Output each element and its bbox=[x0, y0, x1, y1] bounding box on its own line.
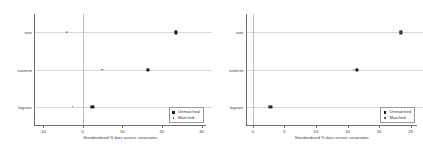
x-axis-tick-label: -10 bbox=[40, 129, 46, 134]
legend-item-unmatched: Unmatched bbox=[172, 110, 200, 114]
row-gridline bbox=[247, 32, 423, 33]
x-axis-tick bbox=[122, 125, 123, 128]
zero-reference-line bbox=[83, 14, 84, 125]
x-axis-tick bbox=[253, 125, 254, 128]
x-axis-tick bbox=[83, 125, 84, 128]
x-axis-tick bbox=[43, 125, 44, 128]
legend-item-matched: Matched bbox=[172, 116, 200, 120]
x-axis-tick-label: 0 bbox=[252, 129, 254, 134]
x-axis-tick-label: 10 bbox=[314, 129, 319, 134]
legend-label-matched: Matched bbox=[390, 116, 406, 120]
legend-label-unmatched: Unmatched bbox=[178, 110, 199, 114]
data-point-matched-rate bbox=[399, 32, 401, 34]
data-point-unmatched-isoterm bbox=[146, 68, 149, 71]
x-axis-tick bbox=[202, 125, 203, 128]
x-axis-tick-label: 5 bbox=[283, 129, 285, 134]
data-point-matched-rate bbox=[66, 32, 68, 34]
legend-marker-matched-icon bbox=[172, 117, 176, 119]
y-axis-label-logsize: logsize bbox=[18, 104, 32, 109]
x-axis-tick bbox=[379, 125, 380, 128]
legend-item-unmatched: Unmatched bbox=[383, 110, 411, 114]
x-axis-tick-label: 10 bbox=[120, 129, 125, 134]
zero-reference-line bbox=[253, 14, 254, 125]
y-axis-label-rate: rate bbox=[236, 30, 244, 35]
data-point-unmatched-rate bbox=[174, 31, 177, 34]
data-point-matched-logsize bbox=[72, 106, 74, 108]
x-axis-tick-label: 20 bbox=[160, 129, 165, 134]
x-axis-tick-label: 15 bbox=[345, 129, 350, 134]
x-axis-tick-label: 0 bbox=[81, 129, 83, 134]
data-point-unmatched-logsize bbox=[91, 105, 94, 108]
panel-left: Standardized % bias across covariates ra… bbox=[0, 0, 212, 153]
y-axis-label-rate: rate bbox=[24, 30, 32, 35]
x-axis-tick-label: 25 bbox=[408, 129, 413, 134]
legend-item-matched: Matched bbox=[383, 116, 411, 120]
x-axis-tick bbox=[316, 125, 317, 128]
data-point-matched-logsize bbox=[270, 106, 272, 108]
y-axis-label-isoterm: isoterm bbox=[18, 67, 32, 72]
legend-marker-unmatched-icon bbox=[172, 111, 176, 114]
x-axis-tick-label: 30 bbox=[199, 129, 204, 134]
x-axis-title: Standardized % bias across covariates bbox=[295, 135, 369, 140]
x-axis-tick bbox=[284, 125, 285, 128]
row-gridline bbox=[247, 70, 423, 71]
data-point-unmatched-isoterm bbox=[355, 68, 358, 71]
y-axis-label-logsize: logsize bbox=[230, 104, 244, 109]
x-axis-tick bbox=[162, 125, 163, 128]
legend-right: Unmatched Matched bbox=[380, 107, 415, 123]
legend-label-matched: Matched bbox=[178, 116, 194, 120]
row-gridline bbox=[35, 70, 212, 71]
row-gridline bbox=[35, 32, 212, 33]
y-axis-label-isoterm: isoterm bbox=[229, 67, 243, 72]
legend-marker-matched-icon bbox=[383, 117, 387, 119]
x-axis-title: Standardized % bias across covariates bbox=[83, 135, 157, 140]
legend-label-unmatched: Unmatched bbox=[390, 110, 411, 114]
data-point-matched-isoterm bbox=[102, 69, 104, 71]
covariate-balance-figure: Standardized % bias across covariates ra… bbox=[0, 0, 423, 153]
x-axis-tick bbox=[411, 125, 412, 128]
data-point-matched-isoterm bbox=[353, 69, 355, 71]
legend-marker-unmatched-icon bbox=[383, 111, 387, 114]
x-axis-tick-label: 20 bbox=[377, 129, 382, 134]
legend-left: Unmatched Matched bbox=[169, 107, 204, 123]
x-axis-tick bbox=[348, 125, 349, 128]
panel-right: Standardized % bias across covariates ra… bbox=[212, 0, 423, 153]
